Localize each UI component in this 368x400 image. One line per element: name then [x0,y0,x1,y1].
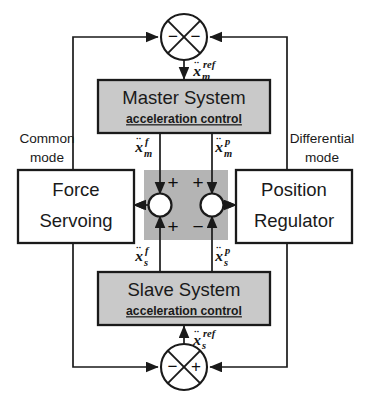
bottom-junction-sign-right: + [191,357,201,376]
top-junction-sign-left: − [168,27,178,46]
force-servoing-title-line2: Servoing [39,210,112,231]
slave-reference-summing-junction[interactable]: − + [161,344,207,390]
slave-ref-sub: s [201,340,206,351]
diagram-svg: Master System acceleration control Slave… [0,0,368,400]
slave-system-subtitle: acceleration control [126,304,242,318]
slave-force-sub: s [143,257,148,268]
master-ref-sup: ref [203,59,217,70]
master-position-base: x [214,138,223,155]
signal-label-slave-position: ¨ x s p [214,242,230,268]
slave-position-sup: p [224,245,230,256]
slave-ref-base: x [192,331,201,348]
center-left-sign-top: + [167,172,178,193]
slave-system-block[interactable]: Slave System acceleration control [98,272,270,325]
master-position-sub: m [224,148,232,159]
differential-mode-label-line1: Differential [290,131,355,146]
master-system-block[interactable]: Master System acceleration control [98,80,270,133]
position-regulator-block[interactable]: Position Regulator [236,170,352,243]
slave-system-title: Slave System [127,279,240,300]
signal-label-slave-ref: ¨ x s ref [192,326,217,351]
slave-ref-sup: ref [203,328,217,339]
slave-position-base: x [214,247,223,264]
master-force-sup: f [145,136,150,147]
common-mode-label: Common mode [19,131,74,165]
top-junction-sign-right: − [191,27,201,46]
signal-label-master-ref: ¨ x m ref [192,57,217,82]
signal-label-master-force: ¨ x m f [134,133,152,159]
force-servoing-block[interactable]: Force Servoing [18,170,134,243]
master-ref-sub: m [202,71,210,82]
bottom-junction-sign-left: − [168,357,178,376]
signal-label-slave-force: ¨ x s f [134,242,150,268]
center-left-node-circle [149,194,172,217]
differential-mode-label-line2: mode [305,150,339,165]
master-system-subtitle: acceleration control [126,112,242,126]
center-right-node-circle [201,194,224,217]
master-force-base: x [134,138,143,155]
position-regulator-title-line2: Regulator [254,210,334,231]
common-mode-label-line2: mode [30,150,64,165]
master-force-sub: m [144,148,152,159]
center-left-sign-bottom: + [167,216,178,237]
position-regulator-title-line1: Position [261,179,327,200]
slave-position-sub: s [223,257,228,268]
slave-force-sup: f [145,245,150,256]
common-mode-label-line1: Common [19,131,74,146]
center-right-sign-bottom: − [192,216,203,237]
master-position-sup: p [224,136,230,147]
differential-mode-label: Differential mode [290,131,355,165]
block-diagram-canvas: Master System acceleration control Slave… [0,0,368,400]
master-reference-summing-junction[interactable]: − − [161,14,207,60]
slave-force-base: x [134,247,143,264]
master-system-title: Master System [122,87,245,108]
master-ref-base: x [192,62,201,79]
center-right-sign-top: + [192,172,203,193]
signal-label-master-position: ¨ x m p [214,133,232,159]
force-servoing-title-line1: Force [52,179,99,200]
